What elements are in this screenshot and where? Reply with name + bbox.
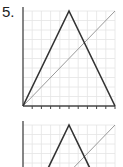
graph-2 bbox=[23, 121, 115, 167]
graph-1 bbox=[23, 7, 115, 109]
graphs-canvas bbox=[0, 0, 123, 167]
grid-lines bbox=[23, 125, 115, 167]
